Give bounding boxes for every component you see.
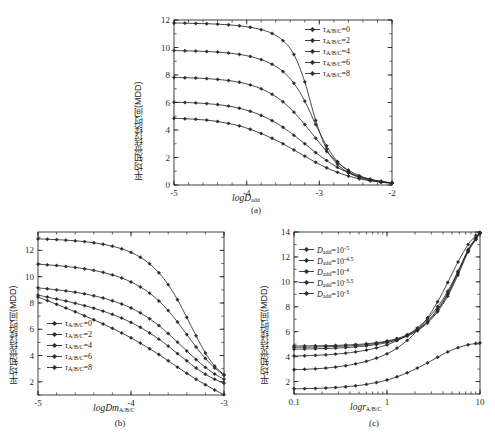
legend-label: τA/B/C=4 xyxy=(65,341,92,350)
svg-text:4: 4 xyxy=(166,125,171,135)
panel-a-caption: (a) xyxy=(236,205,276,215)
svg-text:-5: -5 xyxy=(170,188,178,198)
legend-label: Dadd=10-5 xyxy=(317,245,349,255)
legend-subscript: A/B/C xyxy=(68,355,84,361)
legend-marker-icon xyxy=(304,47,321,56)
legend-value: =4 xyxy=(342,47,351,56)
legend-item: Dadd=10-3 xyxy=(298,288,353,299)
legend-label: τA/B/C=6 xyxy=(65,352,92,361)
legend-exponent: -4.5 xyxy=(344,256,354,262)
legend-value: =10 xyxy=(331,289,344,298)
svg-text:10: 10 xyxy=(25,272,35,282)
legend-item: τA/B/C=0 xyxy=(304,24,350,35)
legend-value: =8 xyxy=(342,69,351,78)
legend-value: =10 xyxy=(331,256,344,265)
legend-item: τA/B/C=6 xyxy=(304,57,350,68)
svg-text:14: 14 xyxy=(281,227,291,237)
legend-subscript: A/B/C xyxy=(68,322,84,328)
svg-text:-3: -3 xyxy=(316,188,324,198)
svg-text:6: 6 xyxy=(286,327,291,337)
svg-text:10: 10 xyxy=(161,43,171,53)
svg-text:8: 8 xyxy=(286,302,291,312)
panel-a-xlabel: logDadd xyxy=(232,193,260,203)
legend-marker-icon xyxy=(46,330,63,339)
panel-b-legend: τA/B/C=0τA/B/C=2τA/B/C=4τA/B/C=6τA/B/C=8 xyxy=(46,318,92,373)
svg-text:12: 12 xyxy=(25,245,34,255)
panel-c-ylabel: 平均知觉持续时间(MDD) xyxy=(257,234,270,384)
legend-subscript: A/B/C xyxy=(68,333,84,339)
legend-item: τA/B/C=8 xyxy=(46,362,92,373)
panel-a-legend: τA/B/C=0τA/B/C=2τA/B/C=4τA/B/C=6τA/B/C=8 xyxy=(304,24,350,79)
legend-label: τA/B/C=8 xyxy=(323,69,350,78)
legend-value: =10 xyxy=(331,245,344,254)
legend-value: =2 xyxy=(84,330,93,339)
legend-marker-icon xyxy=(304,25,321,34)
legend-marker-icon xyxy=(46,363,63,372)
legend-value: =6 xyxy=(342,58,351,67)
panel-b-ylabel: 平均知觉持续时间(MDD) xyxy=(6,234,19,384)
panel-a-ylabel: 平均知觉持续时间(MDD) xyxy=(131,30,144,180)
legend-label: τA/B/C=2 xyxy=(65,330,92,339)
legend-subscript: A/B/C xyxy=(68,366,84,372)
svg-text:6: 6 xyxy=(30,324,35,334)
panel-b-caption: (b) xyxy=(100,418,140,428)
legend-item: τA/B/C=8 xyxy=(304,68,350,79)
legend-exponent: -3 xyxy=(344,289,349,295)
legend-item: Dadd=10-3.5 xyxy=(298,277,353,288)
series-τ_A/B/C=6 xyxy=(172,49,393,185)
panel-c-legend: Dadd=10-5Dadd=10-4.5Dadd=10-4Dadd=10-3.5… xyxy=(298,244,353,299)
legend-marker-icon xyxy=(298,245,315,254)
chart-panel-c: 平均知觉持续时间(MDD) 0.11102468101214 logrA/B/C… xyxy=(258,222,490,440)
svg-text:2: 2 xyxy=(166,153,171,163)
legend-value: =6 xyxy=(84,352,93,361)
svg-text:4: 4 xyxy=(30,351,35,361)
svg-text:2: 2 xyxy=(30,377,35,387)
legend-value: =10 xyxy=(331,267,344,276)
legend-item: τA/B/C=4 xyxy=(304,46,350,57)
chart-panel-a: 平均知觉持续时间(MDD) -5-4-3-2024681012 logDadd … xyxy=(132,8,402,218)
svg-text:10: 10 xyxy=(281,277,291,287)
panel-a-plot: -5-4-3-2024681012 xyxy=(132,8,402,218)
legend-item: Dadd=10-5 xyxy=(298,244,353,255)
legend-label: τA/B/C=0 xyxy=(65,319,92,328)
legend-label: Dadd=10-4 xyxy=(317,267,349,277)
legend-label: τA/B/C=0 xyxy=(323,25,350,34)
panel-c-xlabel-base: logr xyxy=(350,402,366,412)
svg-text:6: 6 xyxy=(166,98,171,108)
svg-text:4: 4 xyxy=(286,352,291,362)
svg-text:0.1: 0.1 xyxy=(288,397,299,407)
panel-b-xlabel-sub: A/B/C xyxy=(119,407,135,413)
legend-marker-icon xyxy=(46,352,63,361)
svg-text:12: 12 xyxy=(161,15,170,25)
legend-item: τA/B/C=6 xyxy=(46,351,92,362)
legend-label: Dadd=10-3 xyxy=(317,289,349,299)
panel-c-xlabel-sub: A/B/C xyxy=(366,406,382,412)
svg-text:10: 10 xyxy=(476,397,486,407)
legend-marker-icon xyxy=(304,69,321,78)
legend-value: =0 xyxy=(84,319,93,328)
svg-text:2: 2 xyxy=(286,377,291,387)
svg-text:-2: -2 xyxy=(388,188,396,198)
legend-subscript: A/B/C xyxy=(326,39,342,45)
legend-exponent: -3.5 xyxy=(344,278,354,284)
svg-text:0: 0 xyxy=(166,180,171,190)
legend-subscript: A/B/C xyxy=(326,72,342,78)
legend-value: =4 xyxy=(84,341,93,350)
legend-label: τA/B/C=6 xyxy=(323,58,350,67)
legend-marker-icon xyxy=(298,289,315,298)
legend-marker-icon xyxy=(304,36,321,45)
legend-label: τA/B/C=4 xyxy=(323,47,350,56)
legend-subscript: A/B/C xyxy=(326,50,342,56)
panel-b-xlabel-base: logDm xyxy=(93,403,119,413)
legend-item: τA/B/C=4 xyxy=(46,340,92,351)
chart-panel-b: 平均知觉持续时间(MDD) -5-4-324681012 logDmA/B/C … xyxy=(8,222,236,440)
legend-item: τA/B/C=2 xyxy=(304,35,350,46)
legend-marker-icon xyxy=(298,256,315,265)
legend-label: Dadd=10-4.5 xyxy=(317,256,353,266)
legend-marker-icon xyxy=(304,58,321,67)
legend-marker-icon xyxy=(298,278,315,287)
svg-text:-5: -5 xyxy=(34,398,42,408)
legend-marker-icon xyxy=(298,267,315,276)
panel-a-xlabel-base: logD xyxy=(232,193,251,203)
legend-marker-icon xyxy=(46,341,63,350)
